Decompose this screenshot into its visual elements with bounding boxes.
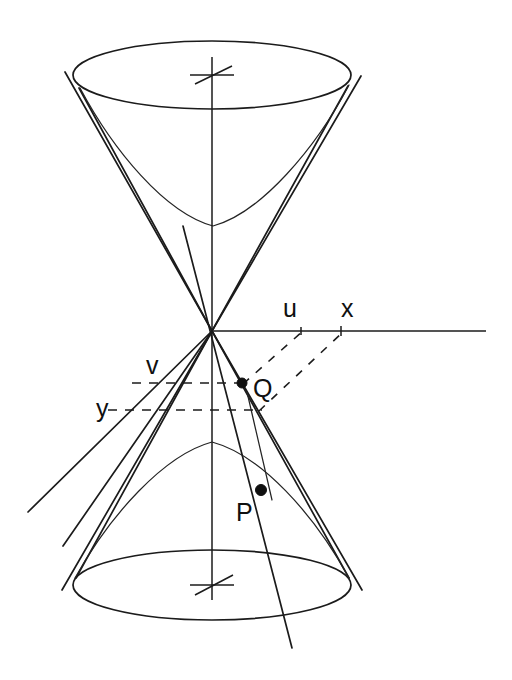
oblique-axis-group — [28, 331, 212, 546]
label-v: v — [146, 351, 159, 379]
dashed-diagonal-to-u — [243, 331, 303, 384]
lower-right-generator-inner — [212, 331, 349, 578]
figure-root: u x v y Q P — [0, 0, 512, 680]
lower-left-generator-inner — [76, 331, 212, 578]
axes-group — [212, 57, 486, 600]
v-axis-line — [63, 331, 212, 546]
point-Q-dot — [237, 378, 247, 388]
upper-right-generator-inner — [212, 86, 348, 331]
label-u: u — [283, 294, 297, 322]
label-x: x — [341, 294, 354, 322]
label-y: y — [96, 394, 109, 422]
y-axis-line — [28, 331, 212, 512]
cone-diagram: u x v y Q P — [0, 0, 512, 680]
upper-nappe — [65, 41, 361, 331]
label-group: u x v y Q P — [96, 294, 354, 526]
label-Q: Q — [253, 374, 272, 402]
upper-left-generator-inner — [79, 88, 212, 331]
connector-segment-Q-to-P — [247, 392, 272, 500]
upper-right-generator-outer — [212, 76, 361, 331]
label-P: P — [236, 498, 253, 526]
point-P-dot — [256, 485, 267, 496]
